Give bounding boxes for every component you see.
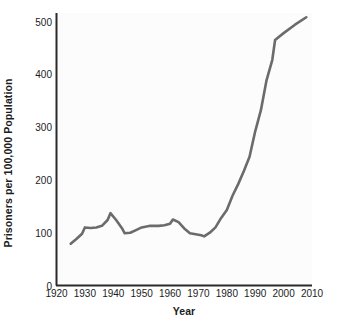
x-tick-2000: 2000: [272, 288, 294, 299]
y-tick-200: 200: [20, 174, 52, 185]
y-tick-400: 400: [20, 69, 52, 80]
line-chart-plot: [0, 0, 338, 326]
x-tick-1980: 1980: [216, 288, 238, 299]
y-tick-500: 500: [20, 16, 52, 27]
y-tick-100: 100: [20, 227, 52, 238]
x-tick-1970: 1970: [187, 288, 209, 299]
x-axis-title: Year: [56, 305, 312, 317]
chart-figure: Prisoners per 100,000 Population Year 01…: [0, 0, 338, 326]
x-tick-1940: 1940: [102, 288, 124, 299]
y-tick-300: 300: [20, 122, 52, 133]
x-tick-1920: 1920: [45, 288, 67, 299]
x-tick-2010: 2010: [301, 288, 323, 299]
x-tick-1990: 1990: [244, 288, 266, 299]
y-axis-title: Prisoners per 100,000 Population: [0, 0, 16, 326]
x-tick-1930: 1930: [74, 288, 96, 299]
x-tick-1950: 1950: [131, 288, 153, 299]
x-tick-1960: 1960: [159, 288, 181, 299]
